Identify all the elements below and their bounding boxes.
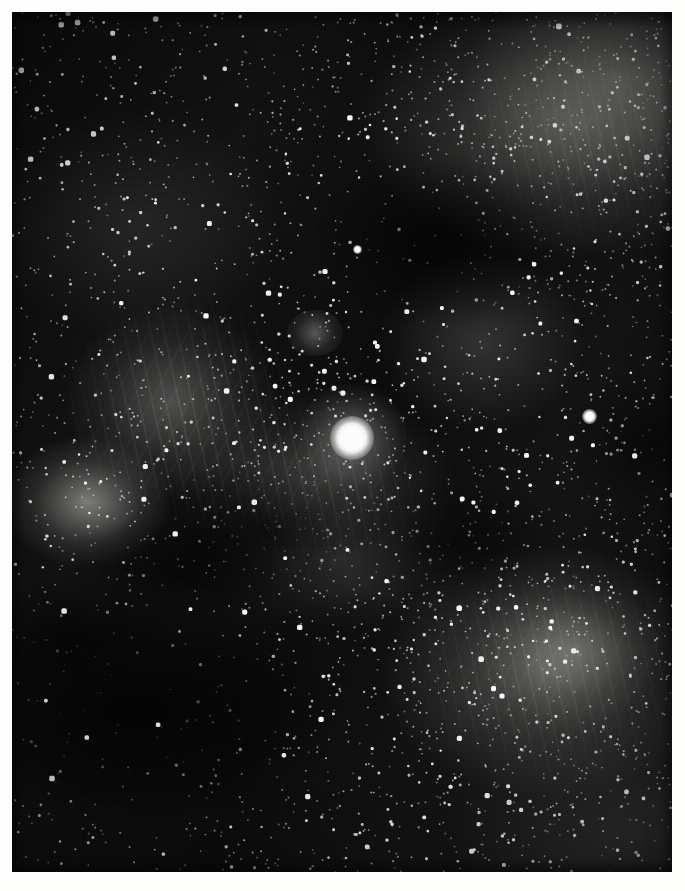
astrophotograph-frame [12,12,672,872]
frame-edge-shading [12,12,672,872]
photo-plate [0,0,685,891]
